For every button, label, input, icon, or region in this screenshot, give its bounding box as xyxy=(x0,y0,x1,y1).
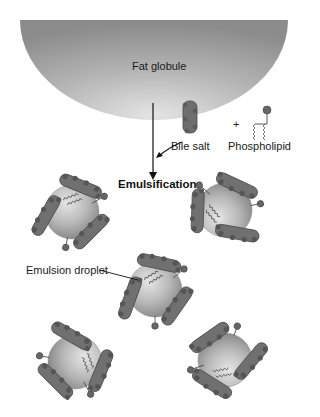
bile-salt-icon xyxy=(183,101,198,133)
emulsification-label: Emulsification xyxy=(118,178,197,190)
bile-salt-label: Bile salt xyxy=(171,140,210,152)
emulsion-droplet-3 xyxy=(115,251,195,329)
emulsion-droplet-1 xyxy=(26,167,118,258)
fat-globule-label: Fat globule xyxy=(132,60,186,72)
emulsion-droplet-4 xyxy=(29,316,120,408)
phospholipid-label: Phospholipid xyxy=(228,140,291,152)
phospholipid-icon xyxy=(253,106,271,140)
emulsion-droplet-5 xyxy=(174,309,276,410)
emulsion-droplet-label: Emulsion droplet xyxy=(26,264,108,276)
plus-sign: + xyxy=(233,118,239,130)
